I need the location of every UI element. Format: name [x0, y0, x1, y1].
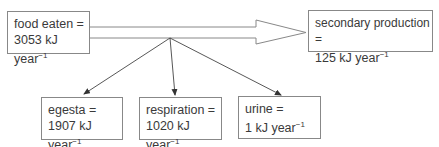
secondary-production-value: 125 kJ year−1	[315, 47, 432, 66]
food-eaten-label: food eaten =	[14, 16, 89, 32]
respiration-label: respiration =	[146, 102, 221, 118]
urine-label: urine =	[245, 101, 320, 117]
food-eaten-box: food eaten = 3053 kJ year−1	[7, 11, 90, 54]
food-eaten-value: 3053 kJ year−1	[14, 32, 89, 67]
egesta-box: egesta = 1907 kJ year−1	[41, 97, 123, 140]
large-hollow-arrow	[89, 20, 306, 44]
egesta-label: egesta =	[48, 102, 122, 118]
branch-arrows	[84, 38, 281, 95]
urine-box: urine = 1 kJ year−1	[238, 96, 321, 139]
respiration-value: 1020 kJ year−1	[146, 118, 221, 147]
urine-value: 1 kJ year−1	[245, 117, 320, 136]
respiration-box: respiration = 1020 kJ year−1	[139, 97, 222, 140]
secondary-production-label: secondary production =	[315, 15, 432, 47]
egesta-value: 1907 kJ year−1	[48, 118, 122, 147]
secondary-production-box: secondary production = 125 kJ year−1	[308, 10, 433, 52]
